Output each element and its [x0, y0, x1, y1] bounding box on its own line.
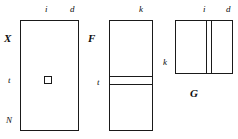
matrix-g-column-dimension-label: d — [226, 5, 231, 14]
matrix-x-row-index-label: t — [8, 76, 11, 85]
matrix-g-column-band-left-line — [206, 20, 207, 74]
matrix-f-row-band-bottom-line — [109, 84, 153, 85]
matrix-x-label: X — [4, 33, 11, 44]
matrix-g-rectangle — [175, 20, 233, 74]
matrix-g-row-dimension-label: k — [163, 58, 167, 67]
matrix-x-column-index-label: i — [45, 5, 48, 14]
matrix-x-highlighted-element — [44, 76, 52, 84]
matrix-f-column-dimension-label: k — [139, 5, 143, 14]
matrix-g-column-index-label: i — [203, 5, 206, 14]
matrix-factorization-figure: X i d t N F k t G i d k — [0, 0, 238, 139]
matrix-f-row-band-top-line — [109, 76, 153, 77]
matrix-x-column-dimension-label: d — [70, 5, 75, 14]
matrix-f-row-index-label: t — [97, 78, 100, 87]
matrix-f-label: F — [88, 33, 95, 44]
matrix-x-row-dimension-label: N — [6, 116, 12, 125]
matrix-g-label: G — [190, 88, 198, 99]
matrix-g-column-band-right-line — [211, 20, 212, 74]
